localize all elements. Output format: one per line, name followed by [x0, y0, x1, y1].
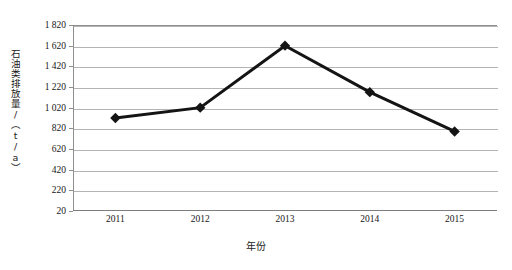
x-axis-tick-labels: 20112012201320142015 — [0, 214, 512, 232]
series-line-oil-discharge — [115, 46, 454, 132]
data-point-marker — [449, 126, 459, 136]
x-axis-tick-label: 2014 — [360, 214, 379, 224]
x-axis-tick-label: 2011 — [106, 214, 125, 224]
y-axis-tick-label: 620 — [22, 144, 66, 154]
y-axis-tick-label: 820 — [22, 123, 66, 133]
x-axis-tick-label: 2012 — [191, 214, 210, 224]
y-axis-tick — [69, 211, 73, 212]
x-axis-title: 年份 — [0, 238, 512, 253]
y-axis-tick-label: 1 420 — [22, 61, 66, 71]
x-axis-tick-label: 2015 — [445, 214, 464, 224]
data-point-marker — [110, 113, 120, 123]
y-axis-tick-label: 1 020 — [22, 103, 66, 113]
y-axis-tick-label: 1 620 — [22, 41, 66, 51]
y-axis-tick-label: 1 820 — [22, 20, 66, 30]
y-axis-tick-label: 220 — [22, 185, 66, 195]
x-axis-tick-label: 2013 — [276, 214, 295, 224]
y-axis-tick-label: 420 — [22, 165, 66, 175]
series-markers — [110, 40, 460, 136]
chart-page: 石油类排放量/（t/a） 202204206208201 0201 2201 4… — [0, 0, 512, 270]
series-layer — [73, 25, 497, 211]
y-axis-tick-label: 1 220 — [22, 82, 66, 92]
